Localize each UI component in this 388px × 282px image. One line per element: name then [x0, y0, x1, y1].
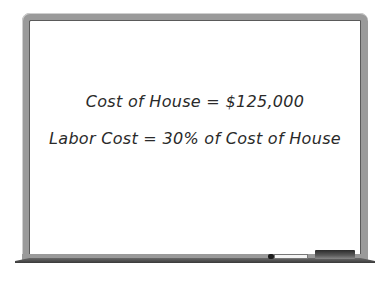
- labor-cost-text: Labor Cost = 30% of Cost of House: [29, 129, 361, 148]
- whiteboard: Cost of House = $125,000 Labor Cost = 30…: [22, 13, 368, 261]
- marker-icon: [274, 254, 308, 259]
- cost-of-house-text: Cost of House = $125,000: [29, 92, 361, 111]
- eraser-icon: [315, 250, 355, 259]
